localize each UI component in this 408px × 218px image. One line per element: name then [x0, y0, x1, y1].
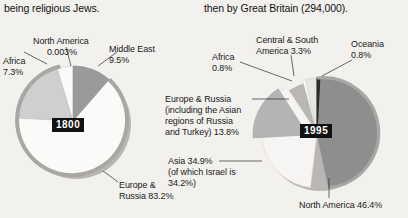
leader-oceania-1995 — [322, 60, 352, 76]
year-badge-1995: 1995 — [300, 124, 332, 138]
year-badge-1800: 1800 — [52, 118, 84, 132]
label-north-america-1800: North America — [33, 36, 89, 47]
label-central-south-1995-l1: Central & South — [256, 35, 318, 46]
label-central-south-1995-l2: America 3.3% — [256, 46, 311, 57]
label-europe-russia-1800-l1: Europe & — [119, 180, 156, 191]
label-europe-1995-l4: and Turkey) 13.8% — [165, 127, 239, 138]
label-europe-1995-l1: Europe & Russia — [165, 94, 231, 105]
label-asia-1995-l3: 34.2%) — [168, 178, 196, 189]
label-africa-pct-1800: 7.3% — [3, 67, 23, 78]
leader-europe-1800 — [103, 171, 118, 182]
label-oceania-pct-1995: 0.8% — [351, 50, 371, 61]
label-north-america-1995: North America 46.4% — [299, 200, 382, 211]
leader-central-south-1995 — [291, 55, 294, 76]
label-oceania-1995: Oceania — [351, 39, 384, 50]
label-asia-1995-l2: (of which Israel is — [168, 167, 236, 178]
leader-africa-1800 — [24, 52, 47, 64]
label-europe-1995-l2: (including the Asian — [165, 105, 241, 116]
leader-africa-1995 — [240, 62, 292, 81]
label-europe-1995-l3: regions of Russia — [165, 116, 233, 127]
label-africa-1995: Africa — [212, 52, 234, 63]
label-africa-pct-1995: 0.8% — [212, 63, 232, 74]
label-africa-1800: Africa — [3, 56, 25, 67]
figure-root: being religious Jews. then by Great Brit… — [0, 0, 408, 218]
label-asia-1995-l1: Asia 34.9% — [168, 156, 213, 167]
label-europe-russia-1800-l2: Russia 83.2% — [119, 191, 173, 202]
label-north-america-pct-1800: 0.003% — [47, 47, 77, 58]
label-middle-east-1800: Middle East — [109, 44, 155, 55]
label-middle-east-pct-1800: 9.5% — [109, 55, 129, 66]
